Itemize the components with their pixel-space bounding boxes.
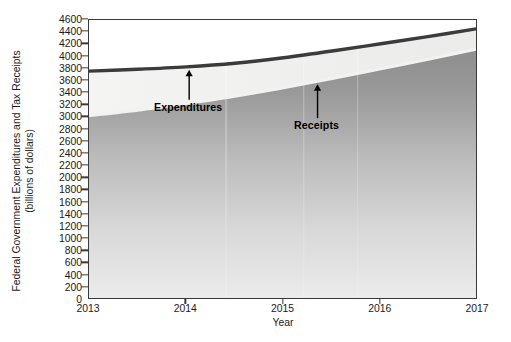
y-tick-mark <box>81 213 88 214</box>
y-tick-label: 4200 <box>59 38 82 49</box>
scan-streak-artifact <box>303 20 304 299</box>
annotation-label-receipts: Receipts <box>294 119 339 131</box>
y-tick-mark <box>81 116 88 117</box>
y-tick-mark <box>81 177 88 178</box>
y-tick-label: 1800 <box>59 184 82 195</box>
scan-streak-artifact <box>225 20 227 299</box>
y-tick-label: 4400 <box>59 26 82 37</box>
y-tick-mark <box>81 262 88 263</box>
y-axis-title-line1: Federal Government Expenditures and Tax … <box>10 50 23 291</box>
x-tick-label: 2016 <box>368 303 391 314</box>
x-tick-label: 2017 <box>465 303 488 314</box>
y-tick-mark <box>81 164 88 165</box>
y-tick-mark <box>81 152 88 153</box>
y-tick-label: 3000 <box>59 111 82 122</box>
y-tick-label: 2600 <box>59 135 82 146</box>
y-tick-mark <box>81 140 88 141</box>
chart-root: Federal Government Expenditures and Tax … <box>0 0 511 342</box>
y-tick-mark <box>81 91 88 92</box>
chart-canvas <box>89 20 477 299</box>
y-tick-label: 600 <box>65 257 82 268</box>
y-tick-mark <box>81 201 88 202</box>
y-tick-mark <box>81 274 88 275</box>
y-axis-title: Federal Government Expenditures and Tax … <box>0 0 46 342</box>
y-tick-label: 3400 <box>59 87 82 98</box>
y-tick-mark <box>81 237 88 238</box>
y-tick-label: 1600 <box>59 196 82 207</box>
scan-streak-artifact <box>357 20 358 299</box>
plot-area <box>88 19 477 299</box>
y-tick-mark <box>81 55 88 56</box>
y-tick-label: 1400 <box>59 208 82 219</box>
y-tick-mark <box>81 43 88 44</box>
y-tick-label: 400 <box>65 269 82 280</box>
y-tick-label: 1200 <box>59 220 82 231</box>
y-tick-label: 2200 <box>59 160 82 171</box>
y-tick-mark <box>81 104 88 105</box>
y-tick-label: 3800 <box>59 62 82 73</box>
y-tick-mark <box>81 189 88 190</box>
x-tick-label: 2013 <box>76 303 99 314</box>
annotation-label-expenditures: Expenditures <box>154 101 222 113</box>
y-tick-mark <box>81 31 88 32</box>
y-tick-label: 3200 <box>59 99 82 110</box>
y-tick-label: 4600 <box>59 14 82 25</box>
x-axis-title: Year <box>273 317 294 328</box>
y-tick-label: 2000 <box>59 172 82 183</box>
y-tick-label: 1000 <box>59 233 82 244</box>
y-tick-mark <box>81 225 88 226</box>
y-tick-label: 200 <box>65 281 82 292</box>
x-tick-label: 2015 <box>271 303 294 314</box>
x-tick-label: 2014 <box>174 303 197 314</box>
y-tick-label: 3600 <box>59 74 82 85</box>
y-tick-mark <box>81 286 88 287</box>
y-tick-label: 4000 <box>59 50 82 61</box>
y-tick-label: 2800 <box>59 123 82 134</box>
y-axis-title-line2: (billions of dollars) <box>23 50 36 291</box>
y-axis-tick-labels: 0200400600800100012001400160018002000220… <box>46 0 88 342</box>
y-tick-mark <box>81 18 88 19</box>
y-tick-label: 800 <box>65 245 82 256</box>
y-tick-label: 2400 <box>59 147 82 158</box>
y-tick-mark <box>81 79 88 80</box>
y-tick-mark <box>81 250 88 251</box>
y-tick-mark <box>81 128 88 129</box>
y-tick-mark <box>81 67 88 68</box>
